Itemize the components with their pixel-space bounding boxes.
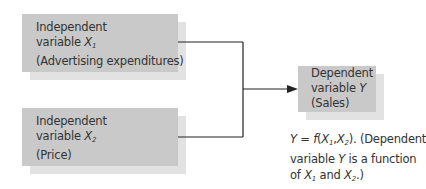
caption-eq: = bbox=[297, 132, 313, 146]
caption-l3-x2: X bbox=[344, 168, 352, 182]
caption-y: Y bbox=[290, 132, 297, 146]
caption-l3-x1: X bbox=[304, 168, 312, 182]
caption-l2-prefix: variable bbox=[290, 152, 338, 166]
caption-l2-suffix: is a function bbox=[345, 152, 416, 166]
caption-close: ). (Dependent bbox=[349, 132, 426, 146]
function-caption: Y = f(X1,X2). (Dependent variable Y is a… bbox=[290, 131, 426, 187]
caption-line2: variable Y is a function bbox=[290, 151, 426, 167]
caption-l3-and: and bbox=[316, 168, 344, 182]
caption-line3: of X1 and X2.) bbox=[290, 167, 426, 187]
caption-l3-suffix: .) bbox=[356, 168, 364, 182]
caption-line1: Y = f(X1,X2). (Dependent bbox=[290, 131, 426, 151]
caption-x1: X bbox=[321, 132, 329, 146]
caption-l3-prefix: of bbox=[290, 168, 304, 182]
arrowhead-icon bbox=[287, 85, 298, 93]
